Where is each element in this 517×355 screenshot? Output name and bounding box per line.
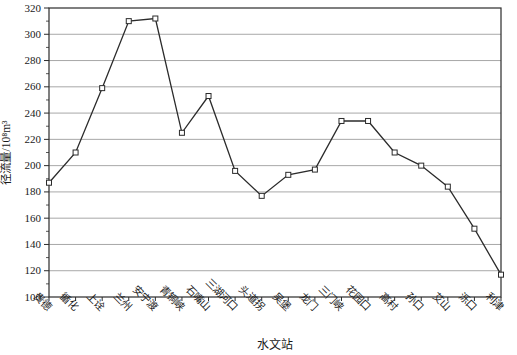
- x-category-label-5: 青铜峡: [157, 283, 187, 313]
- runoff-line-chart: 100120140160180200220240260280300320贵德循化…: [0, 0, 517, 355]
- x-category-label-13: 高村: [377, 290, 400, 313]
- data-point-高村: [392, 150, 397, 155]
- data-point-兰州: [126, 19, 131, 24]
- data-point-孙口: [419, 163, 424, 168]
- y-tick-label-160: 160: [25, 212, 42, 224]
- x-axis-title: 水文站: [257, 337, 293, 352]
- y-tick-label-240: 240: [25, 107, 42, 119]
- x-category-label-2: 上诠: [85, 290, 108, 313]
- data-point-利津: [499, 272, 504, 277]
- y-tick-label-260: 260: [25, 80, 42, 92]
- data-point-安宁渡: [153, 16, 158, 21]
- data-point-吴堡: [286, 172, 291, 177]
- y-tick-label-280: 280: [25, 54, 42, 66]
- data-point-龙门: [312, 167, 317, 172]
- runoff-series-line: [49, 19, 501, 275]
- x-category-label-3: 兰州: [111, 290, 134, 313]
- x-category-label-10: 龙门: [297, 290, 320, 313]
- data-point-青铜峡: [179, 130, 184, 135]
- y-tick-label-200: 200: [25, 159, 42, 171]
- data-point-贵德: [47, 180, 52, 185]
- y-tick-label-120: 120: [25, 264, 42, 276]
- data-point-三湖河口: [233, 168, 238, 173]
- y-tick-label-320: 320: [25, 2, 42, 14]
- data-point-头道拐: [259, 193, 264, 198]
- runoff-line-chart-figure: 100120140160180200220240260280300320贵德循化…: [0, 0, 517, 355]
- x-category-label-17: 利津: [483, 290, 506, 313]
- data-point-艾山: [445, 184, 450, 189]
- y-tick-label-140: 140: [25, 238, 42, 250]
- y-tick-label-300: 300: [25, 28, 42, 40]
- x-category-label-9: 吴堡: [271, 290, 294, 313]
- y-tick-label-220: 220: [25, 133, 42, 145]
- data-point-上诠: [100, 86, 105, 91]
- x-category-label-14: 孙口: [404, 290, 427, 313]
- x-category-label-11: 三门峡: [317, 283, 347, 313]
- data-point-石嘴山: [206, 94, 211, 99]
- data-point-循化: [73, 150, 78, 155]
- x-category-label-1: 循化: [58, 290, 81, 313]
- x-category-label-16: 泺口: [457, 290, 479, 312]
- y-tick-label-180: 180: [25, 185, 42, 197]
- data-point-泺口: [472, 226, 477, 231]
- data-point-花园口: [366, 118, 371, 123]
- x-category-label-4: 安宁渡: [131, 283, 161, 313]
- y-axis-title: 径流量/10⁸m³: [0, 120, 12, 185]
- data-point-三门峡: [339, 118, 344, 123]
- x-category-label-15: 艾山: [430, 290, 452, 312]
